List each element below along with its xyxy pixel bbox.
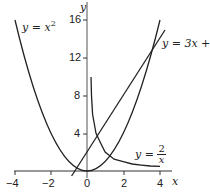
- y-tick-label: 12: [69, 52, 81, 63]
- x-tick-label: 2: [121, 178, 127, 189]
- x-tick-label: 4: [157, 178, 163, 189]
- parabola-eq-exp: 2: [51, 19, 56, 28]
- x-tick-label: 0: [84, 178, 90, 189]
- x-tick-label: −4: [6, 178, 19, 189]
- y-tick-label: 4: [74, 128, 80, 139]
- hyperbola-fraction: 2x: [157, 144, 165, 165]
- fraction-den: x: [157, 155, 165, 165]
- y-axis-label: y: [80, 2, 86, 13]
- y-ticks: [83, 20, 87, 134]
- label-parabola: y = x2: [22, 20, 56, 33]
- y-tick-label: 8: [74, 90, 80, 101]
- hyperbola-eq-text: y =: [135, 148, 157, 161]
- y-tick-label: 16: [69, 14, 81, 25]
- x-axis-label: x: [172, 176, 178, 187]
- label-line: y = 3x + 2: [162, 38, 210, 49]
- label-hyperbola: y = 2x: [135, 144, 166, 165]
- x-tick-label: −2: [42, 178, 55, 189]
- parabola-eq-text: y = x: [22, 21, 51, 34]
